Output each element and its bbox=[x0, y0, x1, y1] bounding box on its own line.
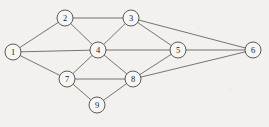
graph-node-6: 6 bbox=[245, 42, 261, 58]
node-label-3: 3 bbox=[129, 13, 133, 23]
graph-node-7: 7 bbox=[59, 71, 75, 87]
graph-node-1: 1 bbox=[5, 44, 21, 60]
graph-edge-4-8 bbox=[104, 55, 127, 74]
graph-node-4: 4 bbox=[90, 42, 106, 58]
graph-edge-3-4 bbox=[103, 23, 125, 45]
graph-node-3: 3 bbox=[123, 10, 139, 26]
node-label-7: 7 bbox=[65, 74, 69, 84]
node-label-6: 6 bbox=[251, 45, 255, 55]
graph-canvas: 123456789 bbox=[0, 0, 269, 127]
graph-edge-4-7 bbox=[72, 55, 92, 74]
graph-node-2: 2 bbox=[57, 10, 73, 26]
graph-edge-1-4 bbox=[21, 50, 91, 52]
graph-edge-5-8 bbox=[139, 54, 171, 75]
graph-edge-8-9 bbox=[103, 83, 127, 100]
node-layer: 123456789 bbox=[5, 10, 261, 113]
graph-edge-3-5 bbox=[137, 22, 172, 46]
graph-edge-7-9 bbox=[73, 84, 92, 100]
node-label-9: 9 bbox=[95, 100, 99, 110]
graph-node-5: 5 bbox=[170, 42, 186, 58]
edge-layer bbox=[19, 18, 245, 101]
graph-node-8: 8 bbox=[125, 71, 141, 87]
node-label-8: 8 bbox=[131, 74, 135, 84]
graph-edge-1-2 bbox=[19, 22, 58, 48]
node-label-2: 2 bbox=[63, 13, 67, 23]
graph-edge-1-7 bbox=[20, 55, 61, 75]
node-label-5: 5 bbox=[176, 45, 180, 55]
graph-node-9: 9 bbox=[89, 97, 105, 113]
graph-edge-2-4 bbox=[70, 23, 92, 45]
graph-diagram: 123456789 bbox=[0, 0, 269, 127]
node-label-1: 1 bbox=[11, 47, 15, 57]
